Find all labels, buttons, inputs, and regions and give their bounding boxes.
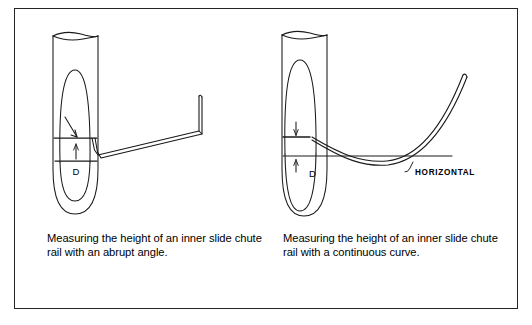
rail-curve-outer (312, 75, 463, 161)
diagram-continuous-curve: D HORIZONTAL (267, 9, 507, 231)
dimension-label-d: D (73, 166, 80, 177)
caption-abrupt-angle: Measuring the height of an inner slide c… (47, 231, 263, 260)
tube-opening-ellipse (53, 32, 98, 36)
figure-border-frame: D Measuring the height of an inner slide… (14, 8, 518, 309)
diagram-abrupt-angle: D (29, 9, 269, 231)
rail-abrupt-angle-inner (95, 97, 202, 158)
rail-abrupt-angle-outer (92, 96, 199, 155)
dimension-label-d: D (309, 168, 316, 179)
caption-continuous-curve: Measuring the height of an inner slide c… (283, 231, 499, 260)
horizontal-leader-line (405, 162, 413, 172)
panel-abrupt-angle: D Measuring the height of an inner slide… (29, 9, 269, 308)
angle-pointer-line (65, 117, 77, 137)
inner-ellipse-lower (285, 154, 316, 211)
inner-ellipse-upper (285, 60, 316, 154)
figure-root: D Measuring the height of an inner slide… (0, 0, 532, 325)
inner-ellipse-upper (60, 70, 90, 162)
rail-curve-end-cap (463, 74, 467, 77)
horizontal-label: HORIZONTAL (415, 168, 475, 177)
rail-curve-inner (312, 77, 467, 165)
panel-continuous-curve: D HORIZONTAL Measuring the height of an … (267, 9, 507, 308)
tube-opening-ellipse (282, 31, 327, 35)
